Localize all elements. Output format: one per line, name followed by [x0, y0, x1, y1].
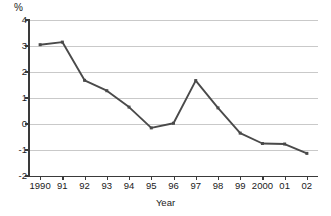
x-axis-tick-label: 94 [124, 181, 135, 191]
x-axis-tick-label: 91 [57, 181, 68, 191]
data-point-marker [105, 89, 108, 92]
x-axis-tick-label: 99 [235, 181, 246, 191]
data-point-marker [305, 152, 308, 155]
data-point-marker [128, 106, 131, 109]
y-axis-tick [25, 71, 29, 72]
x-axis-tick-label: 97 [190, 181, 201, 191]
data-point-marker [61, 41, 64, 44]
x-axis-tick-label: 1990 [30, 181, 51, 191]
data-point-marker [283, 143, 286, 146]
y-axis-tick [25, 149, 29, 150]
x-axis-tick-label: 95 [146, 181, 157, 191]
data-point-marker [39, 43, 42, 46]
x-axis-tick-label: 02 [302, 181, 313, 191]
y-axis-tick [25, 123, 29, 124]
data-point-marker [216, 106, 219, 109]
line-chart: % 43210-1-2 Year 19909192939495969798992… [0, 0, 331, 216]
y-axis-tick [25, 45, 29, 46]
series-polyline [40, 42, 307, 153]
x-axis-title: Year [0, 197, 331, 208]
x-axis-tick-label: 2000 [252, 181, 273, 191]
y-axis-tick [25, 97, 29, 98]
data-point-marker [150, 126, 153, 129]
y-axis-tick [25, 175, 29, 176]
x-axis-tick-label: 01 [279, 181, 290, 191]
x-axis-tick-label: 92 [79, 181, 90, 191]
y-axis-tick [25, 19, 29, 20]
data-point-marker [261, 142, 264, 145]
data-point-marker [194, 79, 197, 82]
data-point-marker [172, 122, 175, 125]
x-axis-tick-label: 98 [213, 181, 224, 191]
data-point-marker [239, 132, 242, 135]
x-axis-tick-label: 96 [168, 181, 179, 191]
x-axis-tick-label: 93 [102, 181, 113, 191]
data-point-marker [83, 79, 86, 82]
